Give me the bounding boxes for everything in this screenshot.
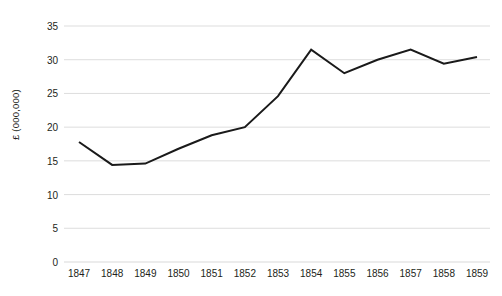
x-axis-tick-label: 1853 <box>267 268 289 279</box>
x-axis-tick-label: 1854 <box>300 268 322 279</box>
x-axis-tick-label: 1859 <box>466 268 488 279</box>
x-axis-tick-label: 1857 <box>400 268 422 279</box>
x-axis-tick-label: 1855 <box>333 268 355 279</box>
x-axis-tick-label: 1851 <box>201 268 223 279</box>
x-axis-tick-label: 1847 <box>68 268 90 279</box>
x-axis-tick-label: 1848 <box>101 268 123 279</box>
x-axis-tick-label: 1850 <box>167 268 189 279</box>
x-axis-tick-labels: 1847184818491850185118521853185418551856… <box>0 0 502 296</box>
x-axis-tick-label: 1849 <box>134 268 156 279</box>
line-chart: £ (000,000) 05101520253035 1847184818491… <box>0 0 502 296</box>
x-axis-tick-label: 1852 <box>234 268 256 279</box>
x-axis-tick-label: 1858 <box>433 268 455 279</box>
x-axis-tick-label: 1856 <box>366 268 388 279</box>
